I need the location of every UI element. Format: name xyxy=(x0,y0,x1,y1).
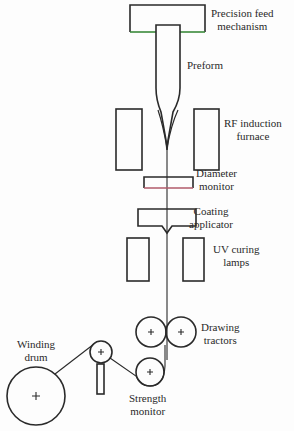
uv-lamp-right xyxy=(183,238,204,281)
label-winding-drum: Winding drum xyxy=(17,338,55,364)
label-uv-lamps: UV curing lamps xyxy=(213,243,260,269)
label-feed-mechanism: Precision feed mechanism xyxy=(211,7,274,33)
label-coating-applicator: Coating applicator xyxy=(189,205,233,231)
label-drawing-tractors: Drawing tractors xyxy=(201,321,240,347)
label-strength-monitor: Strength monitor xyxy=(129,392,166,418)
furnace-right-coil xyxy=(194,109,219,170)
uv-lamp-left xyxy=(127,238,149,281)
furnace-left-coil xyxy=(116,109,142,170)
dancer-stem xyxy=(97,364,104,394)
fiber-drawing-diagram: Precision feed mechanism Preform RF indu… xyxy=(0,0,294,431)
diameter-monitor-box xyxy=(144,177,193,188)
preform-shape xyxy=(156,25,180,150)
label-rf-furnace: RF induction furnace xyxy=(224,117,282,143)
label-preform: Preform xyxy=(187,59,223,72)
feed-mechanism-box xyxy=(130,5,205,32)
diagram-drawing xyxy=(0,0,294,431)
label-diameter-monitor: Diameter monitor xyxy=(196,167,237,193)
